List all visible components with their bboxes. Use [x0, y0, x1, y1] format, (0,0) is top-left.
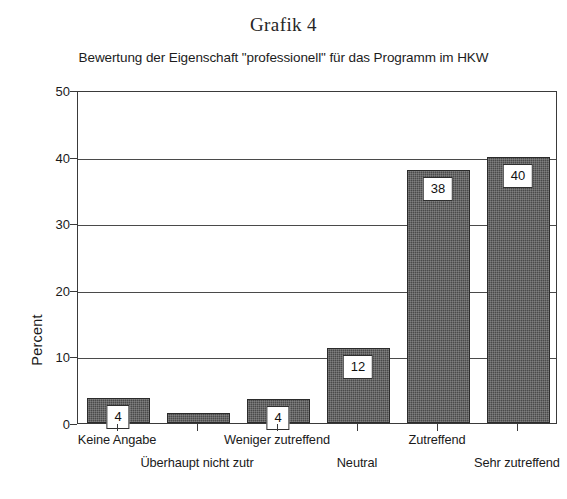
- bar-value-label: 12: [343, 355, 373, 379]
- y-axis-title: Percent: [29, 295, 45, 385]
- x-tick-mark: [357, 424, 358, 431]
- bar-value-label: 40: [503, 164, 533, 188]
- y-tick-label: 20: [24, 283, 70, 298]
- x-category-label: Zutreffend: [408, 432, 465, 447]
- bar-value-label: 4: [266, 406, 289, 430]
- x-tick-mark: [277, 424, 278, 431]
- gridline: [78, 292, 556, 293]
- x-category-label: Weniger zutreffend: [224, 432, 330, 447]
- y-tick-mark: [70, 91, 77, 92]
- bar: [167, 413, 230, 423]
- gridline: [78, 225, 556, 226]
- x-tick-mark: [117, 424, 118, 431]
- x-category-label: Überhaupt nicht zutr: [140, 455, 253, 470]
- figure-subtitle: Bewertung der Eigenschaft "professionell…: [0, 50, 567, 65]
- bar: [407, 170, 470, 423]
- y-tick-label: 40: [24, 150, 70, 165]
- bar-value-label: 38: [423, 177, 453, 201]
- y-tick-label: 30: [24, 217, 70, 232]
- x-category-label: Keine Angabe: [78, 432, 157, 447]
- bar: [487, 157, 550, 423]
- gridline: [78, 159, 556, 160]
- y-tick-mark: [70, 357, 77, 358]
- y-tick-mark: [70, 224, 77, 225]
- x-tick-mark: [517, 424, 518, 431]
- y-tick-mark: [70, 424, 77, 425]
- figure-title: Grafik 4: [0, 14, 567, 36]
- plot-area: 44123840: [77, 91, 557, 424]
- gridline: [78, 358, 556, 359]
- x-tick-mark: [197, 424, 198, 431]
- bar-value-label: 4: [106, 405, 129, 429]
- x-tick-mark: [437, 424, 438, 431]
- y-tick-mark: [70, 291, 77, 292]
- y-tick-label: 10: [24, 350, 70, 365]
- x-category-label: Sehr zutreffend: [474, 455, 560, 470]
- x-category-label: Neutral: [337, 455, 378, 470]
- y-tick-mark: [70, 158, 77, 159]
- y-tick-label: 50: [24, 84, 70, 99]
- y-tick-label: 0: [24, 417, 70, 432]
